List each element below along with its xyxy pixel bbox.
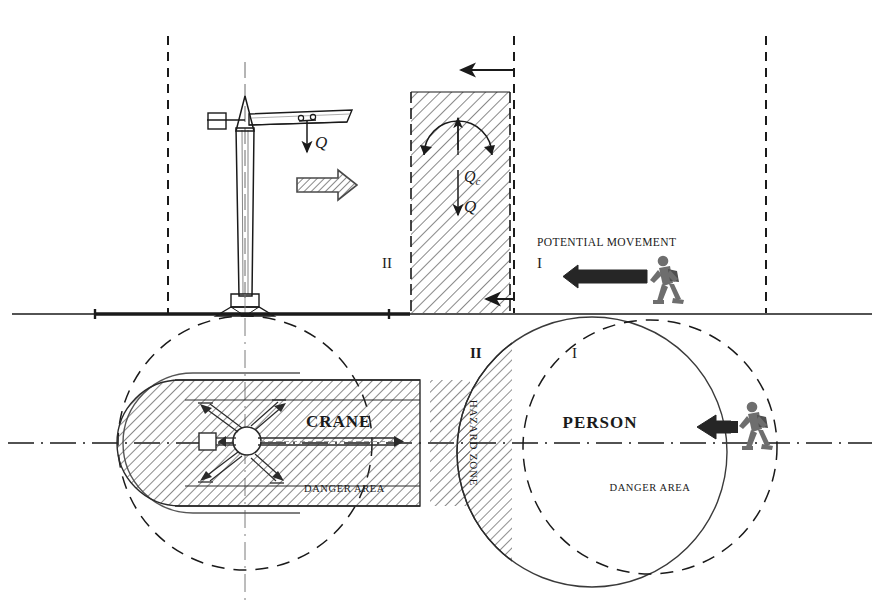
elevation-movement-arrow: [563, 265, 647, 288]
hazard-band: [411, 92, 510, 313]
technical-diagram: Q Qc Q II I: [0, 0, 876, 614]
person-figure-elevation: [650, 256, 684, 304]
plan-view: CRANE DANGER AREA HAZARD ZONE II I PERSO…: [8, 316, 872, 600]
tower-crane-elevation: [207, 96, 352, 316]
plan-movement-arrow: [697, 415, 738, 439]
label-elev-zone-i: I: [537, 255, 542, 271]
diagram-canvas: Q Qc Q II I: [0, 0, 876, 614]
label-load-q-top: Q: [315, 133, 327, 152]
label-elev-zone-ii: II: [382, 255, 392, 271]
swing-motion-arrow: [297, 170, 357, 200]
label-crane: CRANE: [306, 412, 371, 431]
label-plan-zone-i: I: [572, 345, 577, 361]
label-person: PERSON: [563, 413, 638, 432]
elevation-view: Q Qc Q II I: [12, 36, 872, 319]
person-danger-circle-dashed: [523, 320, 777, 574]
label-hazard-zone: HAZARD ZONE: [468, 400, 480, 487]
label-potential-movement: POTENTIAL MOVEMENT: [537, 236, 676, 248]
label-plan-zone-ii: II: [470, 345, 482, 361]
label-danger-area-crane: DANGER AREA: [304, 483, 385, 494]
label-load-q-zone: Q: [464, 197, 476, 216]
counterweight: [208, 113, 226, 129]
label-danger-area-person: DANGER AREA: [610, 482, 691, 493]
